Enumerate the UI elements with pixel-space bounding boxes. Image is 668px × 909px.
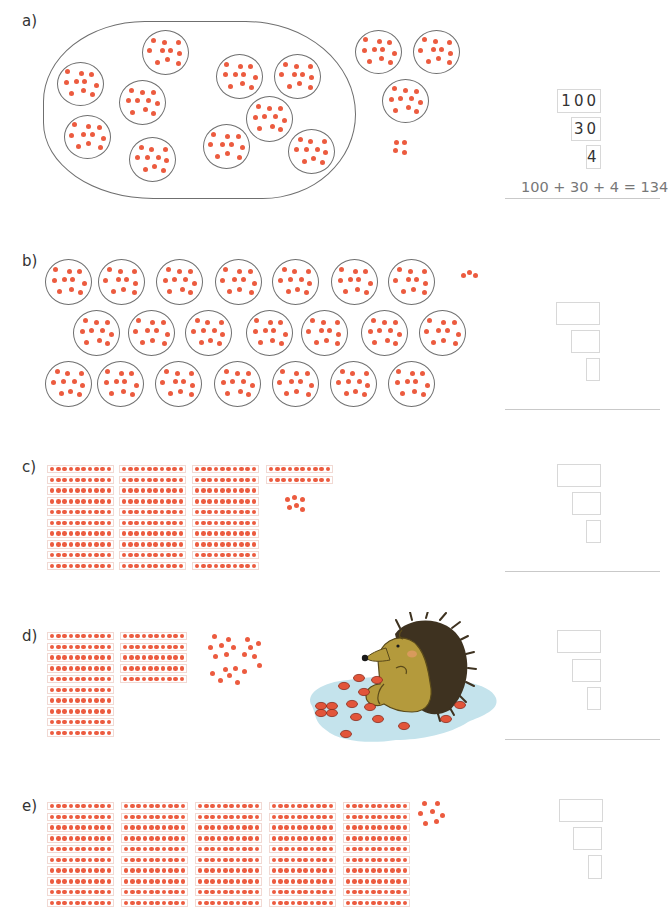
dot-circle-ten [73,310,120,356]
ten-strip [47,476,114,484]
dot [280,369,285,374]
answer-box-hundreds[interactable] [557,630,601,653]
dot [240,145,245,150]
hundred-block [192,465,259,572]
answer-box-ones[interactable] [586,358,600,381]
dot [98,145,103,150]
dot [77,269,82,274]
hedgehog-illustration [300,612,500,752]
dot [292,269,297,274]
dot [129,88,134,93]
dot [61,379,66,384]
part-label: b) [22,252,37,270]
dot [456,332,461,337]
answer-box-tens[interactable] [572,659,601,682]
part-label: c) [22,458,36,476]
ten-strip [192,562,259,570]
dot [294,389,299,394]
dot [76,144,81,149]
ten-strip [121,899,188,907]
ten-strip [195,877,262,885]
hundred-block [269,802,336,909]
answer-box-ones[interactable] [587,687,601,710]
ten-strip [343,823,410,831]
dot [143,167,148,172]
dot [387,40,392,45]
dot [205,320,210,325]
answer-box-tens[interactable] [572,492,601,515]
dot [100,328,105,333]
dot [371,318,376,323]
ten-strip [47,540,114,548]
dot [212,634,217,639]
ten-strip [195,899,262,907]
dot [167,289,172,294]
dot [229,142,234,147]
ten-strip [47,562,114,570]
ten-strip [119,519,186,527]
dot [147,48,152,53]
dot [298,379,303,384]
answer-box-tens[interactable] [573,827,602,850]
dot [304,290,309,295]
dot [425,383,430,388]
dot-circle-ten [98,259,145,305]
divider-line [505,198,660,199]
dot [208,142,213,147]
dot [248,645,253,650]
ten-strip [121,802,188,810]
ten-strip [195,802,262,810]
dot [422,37,427,42]
dot [382,320,387,325]
dot [306,269,311,274]
dot [105,369,110,374]
dot [130,110,135,115]
dot [116,277,121,282]
dot [238,64,243,69]
dot [190,383,195,388]
answer-box-tens[interactable]: 30 [571,117,601,141]
dot [294,371,299,376]
answer-box-hundreds[interactable] [556,302,600,325]
ten-strip [343,866,410,874]
dot [62,277,67,282]
dot [254,318,259,323]
dot [233,666,238,671]
dot-circle-ten [246,310,293,356]
dot [324,338,329,343]
answer-box-hundreds[interactable] [557,464,601,487]
dot [353,269,358,274]
dot [105,341,110,346]
dot [233,72,238,77]
dot [372,340,377,345]
dot [278,320,283,325]
dot [105,320,110,325]
ten-strip [269,834,336,842]
answer-box-ones[interactable]: 4 [586,145,601,169]
dot [448,51,453,56]
answer-box-ones[interactable] [588,855,602,879]
ten-strip [47,664,114,672]
dot [248,269,253,274]
dot [134,383,139,388]
dot [377,328,382,333]
dot [107,267,112,272]
dot [246,392,251,397]
dot [309,75,314,80]
dot-circle-ten [129,137,176,182]
dot [368,281,373,286]
answer-box-ones[interactable] [586,520,601,543]
dot [279,341,284,346]
answer-box-hundreds[interactable]: 100 [557,89,601,113]
dot [124,277,129,282]
dot [364,371,369,376]
answer-box-hundreds[interactable] [559,799,603,822]
dot [340,369,345,374]
dot [151,38,156,43]
dot [336,380,341,385]
ten-strip [47,877,114,885]
dot [135,155,140,160]
answer-box-tens[interactable] [571,330,600,353]
ten-strip [47,866,114,874]
dot [414,109,419,114]
